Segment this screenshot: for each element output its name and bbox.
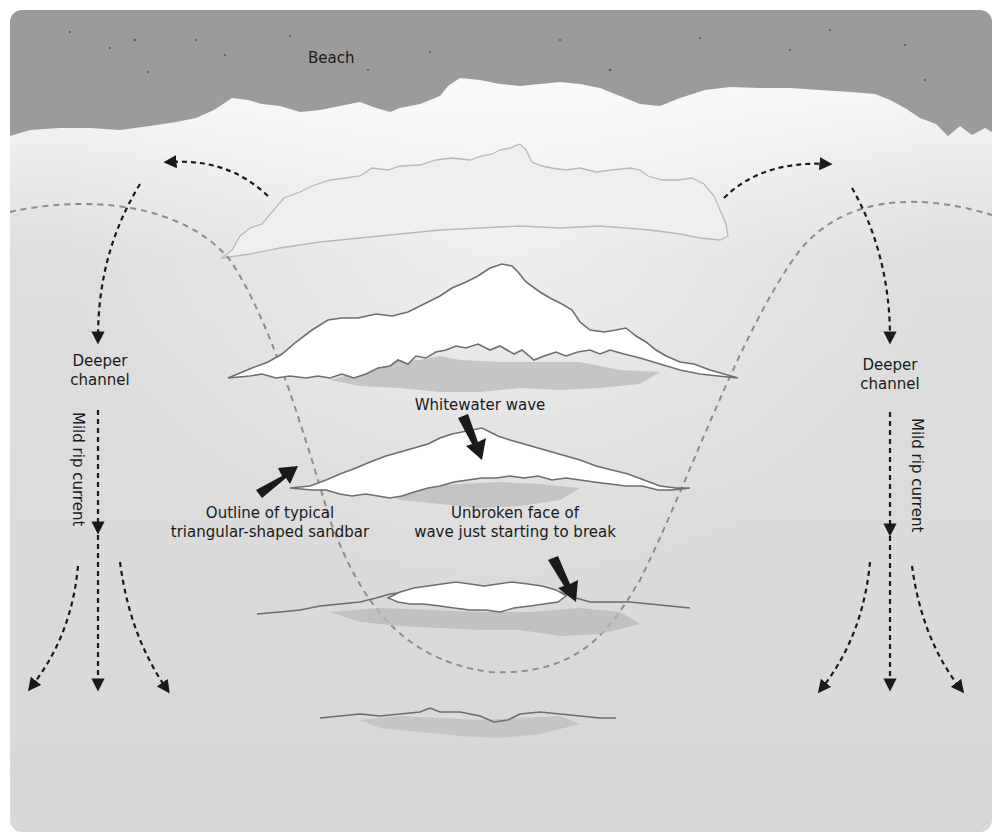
unbroken-line1: Unbroken face of — [400, 504, 630, 523]
right-channel-label: Deeper channel — [848, 356, 932, 394]
sandbar-label: Outline of typical triangular-shaped san… — [160, 504, 380, 542]
sandbar-line2: triangular-shaped sandbar — [160, 523, 380, 542]
right-rip-label: Mild rip current — [908, 418, 926, 532]
left-channel-label: Deeper channel — [58, 352, 142, 390]
unbroken-line2: wave just starting to break — [400, 523, 630, 542]
left-rip-label: Mild rip current — [69, 412, 87, 526]
right-channel-line2: channel — [848, 375, 932, 394]
left-channel-line2: channel — [58, 371, 142, 390]
unbroken-face-label: Unbroken face of wave just starting to b… — [400, 504, 630, 542]
beach-label: Beach — [308, 49, 354, 68]
sandbar-line1: Outline of typical — [160, 504, 380, 523]
whitewater-label: Whitewater wave — [390, 396, 570, 415]
left-channel-line1: Deeper — [58, 352, 142, 371]
right-channel-line1: Deeper — [848, 356, 932, 375]
rip-current-diagram — [0, 0, 1000, 840]
